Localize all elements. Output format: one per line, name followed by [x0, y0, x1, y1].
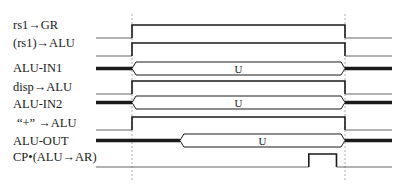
alu-out-value-label: U — [258, 135, 266, 147]
alu-in1-value-label: U — [235, 63, 243, 75]
timing-diagram: rs1→GR (rs1)→ALU ALU-IN1 disp→ALU ALU-IN… — [0, 0, 403, 192]
waveform-canvas: UUU — [0, 0, 403, 192]
rs1-to-gr-high-pulse — [132, 25, 345, 38]
alu-in2-value-label: U — [235, 97, 243, 109]
plus-to-alu-high-pulse — [132, 117, 345, 130]
disp-to-alu-high-pulse — [132, 81, 345, 94]
rs1-contents-to-alu-high-pulse — [132, 43, 345, 56]
cp-alu-to-ar-high-pulse — [309, 154, 337, 167]
